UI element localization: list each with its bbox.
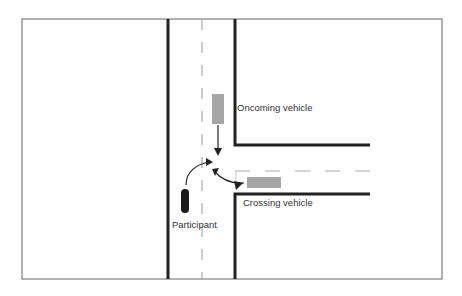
participant-vehicle [181, 189, 189, 213]
intersection-diagram [0, 0, 462, 296]
crossing-vehicle-label: Crossing vehicle [243, 197, 313, 208]
oncoming-vehicle-label: Oncoming vehicle [237, 102, 313, 113]
oncoming-vehicle [212, 94, 224, 124]
crossing-vehicle [247, 177, 281, 188]
diagram-frame [22, 19, 442, 279]
participant-label: Participant [172, 219, 217, 230]
